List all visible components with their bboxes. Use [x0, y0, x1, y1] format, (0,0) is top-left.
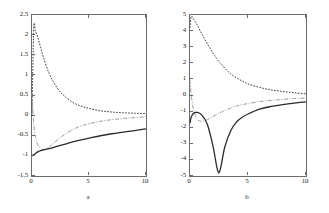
- y-tick-mark: [190, 159, 193, 160]
- y-tick-mark: [32, 115, 35, 116]
- y-tick-mark: [32, 95, 35, 96]
- y-tick-mark: [32, 34, 35, 35]
- x-tick-label: 10: [133, 178, 157, 185]
- y-tick-mark: [190, 95, 193, 96]
- y-tick-label: 0: [6, 111, 28, 118]
- y-tick-mark: [190, 14, 193, 15]
- y-tick-label: -3: [164, 139, 186, 146]
- y-tick-label: 2: [6, 31, 28, 38]
- y-tick-label: 5: [164, 11, 186, 18]
- y-tick-mark: [190, 30, 193, 31]
- y-tick-label: 2: [164, 59, 186, 66]
- x-tick-mark: [145, 172, 146, 175]
- series-solid-curve: [190, 102, 306, 173]
- x-tick-label: 0: [19, 178, 43, 185]
- series-dash-dot-curve: [32, 93, 146, 149]
- y-tick-mark: [32, 54, 35, 55]
- x-tick-mark: [189, 172, 190, 175]
- plot-area-b: [189, 14, 307, 177]
- series-solid-curve: [32, 129, 146, 156]
- y-tick-mark: [190, 46, 193, 47]
- x-tick-label: 5: [76, 178, 100, 185]
- x-tick-mark-top: [305, 15, 306, 18]
- y-tick-label: -1: [164, 107, 186, 114]
- y-tick-label: -2: [164, 123, 186, 130]
- y-tick-label: 0.5: [6, 91, 28, 98]
- x-tick-mark: [31, 172, 32, 175]
- x-tick-label: 5: [235, 178, 259, 185]
- panel-caption-b: b: [227, 193, 267, 201]
- x-tick-mark-top: [145, 15, 146, 18]
- y-tick-mark: [190, 62, 193, 63]
- series-dotted-curve: [190, 16, 306, 94]
- y-tick-label: 1.5: [6, 51, 28, 58]
- y-tick-mark: [190, 78, 193, 79]
- plot-area-a: [31, 14, 147, 177]
- series-dotted-curve: [32, 23, 146, 116]
- curves-b: [190, 15, 306, 176]
- y-tick-label: -1: [6, 151, 28, 158]
- curves-a: [32, 15, 146, 176]
- x-tick-mark-top: [247, 15, 248, 18]
- y-tick-mark: [32, 14, 35, 15]
- y-tick-label: 4: [164, 27, 186, 34]
- x-tick-label: 0: [177, 178, 201, 185]
- y-tick-mark: [32, 155, 35, 156]
- y-tick-mark: [190, 127, 193, 128]
- x-tick-label: 10: [293, 178, 317, 185]
- x-tick-mark: [305, 172, 306, 175]
- y-tick-label: 1: [6, 71, 28, 78]
- x-tick-mark-top: [189, 15, 190, 18]
- y-tick-label: -4: [164, 155, 186, 162]
- y-tick-mark: [190, 143, 193, 144]
- y-tick-label: 1: [164, 75, 186, 82]
- panel-caption-a: a: [68, 193, 108, 201]
- y-tick-mark: [32, 175, 35, 176]
- x-tick-mark: [88, 172, 89, 175]
- y-tick-label: 2.5: [6, 11, 28, 18]
- y-tick-label: 3: [164, 43, 186, 50]
- panel-a: -1.5-1-0.500.511.522.5 0510 a: [0, 0, 164, 213]
- y-tick-mark: [190, 111, 193, 112]
- x-tick-mark-top: [31, 15, 32, 18]
- y-tick-label: -0.5: [6, 131, 28, 138]
- x-tick-mark: [247, 172, 248, 175]
- panel-b: -5-4-3-2-1012345 0510 b: [165, 0, 329, 213]
- y-tick-mark: [190, 175, 193, 176]
- x-tick-mark-top: [88, 15, 89, 18]
- y-tick-label: 0: [164, 91, 186, 98]
- y-tick-mark: [32, 74, 35, 75]
- figure-container: -1.5-1-0.500.511.522.5 0510 a -5-4-3-2-1…: [0, 0, 329, 213]
- y-tick-mark: [32, 135, 35, 136]
- series-dash-dot-curve: [190, 80, 306, 121]
